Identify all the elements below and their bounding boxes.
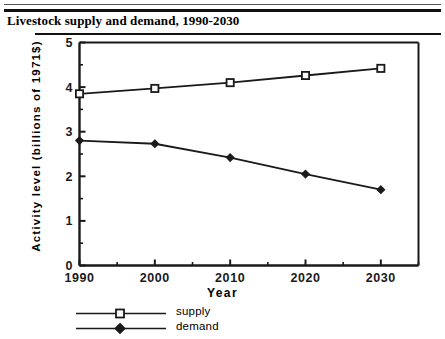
axis-group: [80, 43, 419, 266]
y-tick-label: 5: [66, 36, 73, 50]
chart-plot-area: 01234519902000201020202030: [0, 0, 445, 300]
legend-label-demand: demand: [176, 320, 219, 332]
data-point-supply: [76, 90, 83, 97]
y-tick-label: 3: [66, 125, 73, 139]
x-tick-label: 1990: [64, 271, 94, 285]
data-point-supply: [377, 65, 384, 72]
tick-marks-group: [80, 43, 419, 266]
x-tick-label: 2030: [366, 271, 396, 285]
y-tick-label: 2: [66, 170, 73, 184]
x-tick-label: 2000: [140, 271, 170, 285]
x-axis-label: Year: [0, 286, 445, 300]
data-point-supply: [302, 72, 309, 79]
legend-label-supply: supply: [176, 305, 210, 317]
data-point-demand: [302, 170, 310, 178]
data-point-demand: [76, 137, 84, 145]
data-point-supply: [227, 79, 234, 86]
y-tick-label: 4: [66, 81, 73, 95]
x-tick-label: 2020: [290, 271, 320, 285]
legend-swatch-demand: [74, 321, 172, 336]
data-series-group: [76, 65, 385, 194]
y-tick-label: 1: [66, 214, 73, 228]
legend-swatch-supply: [74, 306, 172, 321]
x-tick-label: 2010: [215, 271, 245, 285]
data-point-supply: [151, 85, 158, 92]
data-point-demand: [377, 186, 385, 194]
series-line-demand: [80, 141, 381, 190]
data-point-demand: [226, 154, 234, 162]
data-point-demand: [151, 140, 159, 148]
